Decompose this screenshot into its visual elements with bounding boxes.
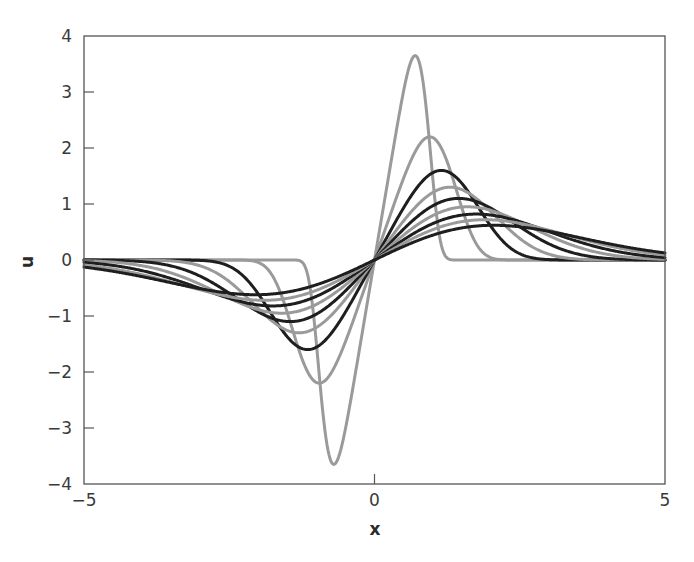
x-ticks: −505 — [71, 474, 670, 510]
y-tick-label: 4 — [61, 26, 72, 46]
curves — [84, 56, 665, 465]
y-tick-label: −4 — [47, 474, 72, 494]
x-tick-label: 5 — [660, 490, 671, 510]
x-tick-label: −5 — [71, 490, 96, 510]
x-axis-label: x — [370, 519, 381, 539]
y-ticks: −4−3−2−101234 — [47, 26, 94, 494]
y-tick-label: 2 — [61, 138, 72, 158]
y-tick-label: 0 — [61, 250, 72, 270]
chart: −4−3−2−101234 −505 u x — [0, 0, 694, 562]
y-tick-label: −2 — [47, 362, 72, 382]
y-tick-label: 3 — [61, 82, 72, 102]
y-tick-label: 1 — [61, 194, 72, 214]
y-tick-label: −3 — [47, 418, 72, 438]
x-tick-label: 0 — [369, 490, 380, 510]
y-tick-label: −1 — [47, 306, 72, 326]
y-axis-label: u — [17, 256, 37, 268]
